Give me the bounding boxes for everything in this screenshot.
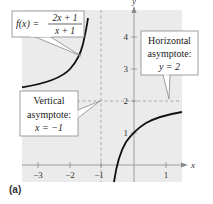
y-tick-label: 3: [124, 64, 129, 74]
y-tick-label: 1: [124, 128, 129, 138]
horizontal-callout-line2: asymptote:: [148, 48, 192, 59]
y-axis-arrow-icon: [132, 6, 137, 13]
y-tick-label: 4: [124, 32, 129, 42]
vertical-callout-line3: x = −1: [34, 122, 63, 133]
function-lhs: f(x) =: [16, 18, 39, 30]
x-tick-label: −1: [94, 170, 104, 180]
function-numerator: 2x + 1: [53, 13, 78, 23]
y-axis-label: y: [131, 0, 136, 6]
vertical-callout-line1: Vertical: [33, 95, 64, 106]
panel-label: (a): [9, 184, 21, 195]
x-tick-label: 1: [164, 170, 169, 180]
horizontal-callout-line1: Horizontal: [148, 35, 191, 46]
x-axis-label: x: [190, 160, 195, 170]
horizontal-callout-line3: y = 2: [158, 61, 180, 72]
rational-function-graph: −3 −2 −1 1 x 1 2 3 4 y f(x) = 2x + 1 x +…: [0, 0, 213, 204]
y-tick-label: 2: [124, 96, 129, 106]
x-tick-label: −2: [65, 170, 75, 180]
x-tick-label: −3: [33, 170, 43, 180]
vertical-callout-line2: asymptote:: [27, 109, 71, 120]
x-axis-arrow-icon: [181, 163, 188, 168]
function-denominator: x + 1: [54, 26, 75, 36]
